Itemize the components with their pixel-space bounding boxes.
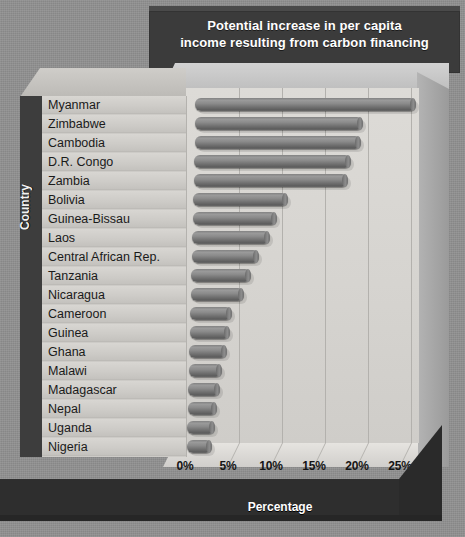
bar-end-cap [224, 326, 230, 339]
category-label: Madagascar [42, 381, 186, 399]
category-label: Guinea-Bissau [42, 210, 186, 228]
category-label: Tanzania [42, 267, 186, 285]
category-label: Nicaragua [42, 286, 186, 304]
chart-title-line-1: Potential increase in per capita [149, 17, 460, 34]
bar-end-cap [245, 269, 251, 282]
bar-body [191, 288, 244, 301]
bar-end-cap [209, 421, 215, 434]
bar-body [195, 117, 363, 130]
plot-right-wall [417, 72, 449, 467]
base-plinth-shadow [0, 515, 442, 521]
bar[interactable] [190, 307, 231, 320]
bar[interactable] [188, 402, 217, 415]
bar[interactable] [195, 98, 415, 111]
x-axis-tick-label: 10% [251, 459, 291, 473]
bar[interactable] [190, 326, 230, 339]
bar-end-cap [271, 212, 277, 225]
bar-end-cap [238, 288, 244, 301]
bar[interactable] [187, 421, 215, 434]
x-axis-tick-label: 5% [208, 459, 248, 473]
bar-body [192, 231, 269, 244]
bar-body [194, 174, 349, 187]
bar-body [195, 98, 415, 111]
bar[interactable] [191, 288, 244, 301]
bar-end-cap [206, 440, 212, 453]
bar[interactable] [194, 174, 349, 187]
bar-end-cap [214, 383, 220, 396]
bar-body [193, 193, 288, 206]
bar-end-cap [211, 402, 217, 415]
gridline [411, 88, 412, 443]
x-axis-tick-label: 15% [294, 459, 334, 473]
chart-title: Potential increase in per capita income … [149, 17, 460, 51]
bar-body [195, 136, 362, 149]
bar-end-cap [342, 174, 348, 187]
bar[interactable] [195, 136, 362, 149]
category-label: Laos [42, 229, 186, 247]
chart-title-line-2: income resulting from carbon financing [149, 34, 460, 51]
gridline [368, 88, 369, 443]
bar[interactable] [187, 440, 212, 453]
category-label: Central African Rep. [42, 248, 186, 266]
bar[interactable] [188, 383, 220, 396]
bar-end-cap [345, 155, 351, 168]
category-label: Cameroon [42, 305, 186, 323]
bar[interactable] [191, 269, 251, 282]
bar-end-cap [357, 117, 363, 130]
bar[interactable] [194, 155, 351, 168]
x-axis-tick-label: 0% [165, 459, 205, 473]
bar-end-cap [282, 193, 288, 206]
category-label: Myanmar [42, 96, 186, 114]
bar[interactable] [189, 364, 223, 377]
bar-end-cap [410, 98, 416, 111]
bar-body [191, 269, 251, 282]
category-label: Bolivia [42, 191, 186, 209]
bar-end-cap [221, 345, 227, 358]
category-label: Zimbabwe [42, 115, 186, 133]
bar-end-cap [355, 136, 361, 149]
bar-end-cap [264, 231, 270, 244]
category-label: Ghana [42, 343, 186, 361]
bar-body [192, 250, 259, 263]
x-axis-title: Percentage [155, 500, 405, 514]
category-label: Uganda [42, 419, 186, 437]
bar-end-cap [226, 307, 232, 320]
bar-body [193, 212, 277, 225]
bar[interactable] [193, 193, 288, 206]
bar[interactable] [189, 345, 227, 358]
category-label: Malawi [42, 362, 186, 380]
bar-end-cap [253, 250, 259, 263]
bar[interactable] [195, 117, 363, 130]
bar[interactable] [192, 231, 269, 244]
plot-ceiling [163, 63, 449, 89]
bar[interactable] [193, 212, 277, 225]
category-panel-side-edge [20, 96, 42, 457]
category-label: Zambia [42, 172, 186, 190]
y-axis-title: Country [18, 184, 32, 230]
bar-body [194, 155, 351, 168]
bar-end-cap [216, 364, 222, 377]
category-panel-top-edge [20, 68, 186, 97]
category-label: Guinea [42, 324, 186, 342]
category-label: Nepal [42, 400, 186, 418]
x-axis-tick-label: 20% [337, 459, 377, 473]
category-label: Cambodia [42, 134, 186, 152]
category-label: D.R. Congo [42, 153, 186, 171]
bar[interactable] [192, 250, 259, 263]
category-label: Nigeria [42, 438, 186, 456]
